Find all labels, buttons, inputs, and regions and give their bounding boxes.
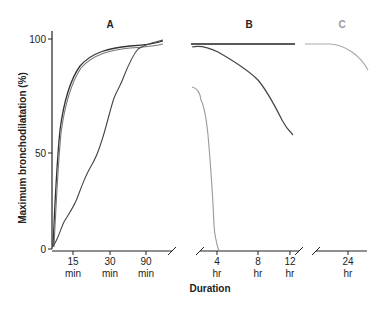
- y-tick-100: 100: [29, 34, 46, 45]
- y-tick-50: 50: [35, 148, 47, 159]
- series-short-acting-gray: [192, 87, 219, 251]
- series-slow-onset: [53, 40, 163, 246]
- x-tick-4hr-unit: hr: [213, 268, 223, 279]
- panel-c-label: C: [338, 19, 345, 30]
- x-tick-90-unit: min: [138, 268, 154, 279]
- x-tick-12hr: 12: [284, 256, 296, 267]
- panel-b: B 4 hr 8 hr 12 hr: [191, 19, 303, 279]
- x-tick-8hr-unit: hr: [254, 268, 264, 279]
- x-tick-24hr: 24: [342, 256, 354, 267]
- x-axis-label: Duration: [189, 283, 230, 294]
- y-axis-label: Maximum bronchodilatation (%): [17, 72, 28, 224]
- x-tick-4hr: 4: [214, 256, 220, 267]
- x-tick-90: 90: [140, 256, 152, 267]
- bronchodilatation-chart: Maximum bronchodilatation (%) 100 50 0 A…: [0, 0, 386, 310]
- panel-c: C 24 hr: [305, 19, 368, 279]
- x-tick-15-unit: min: [65, 268, 81, 279]
- x-tick-12hr-unit: hr: [286, 268, 296, 279]
- panel-a-label: A: [106, 19, 113, 30]
- y-tick-0: 0: [40, 244, 46, 255]
- panel-b-label: B: [245, 19, 252, 30]
- series-fast-onset-2: [54, 44, 163, 247]
- panel-a: A 15 min 30 min 90 min: [52, 19, 176, 279]
- x-tick-30: 30: [104, 256, 116, 267]
- x-tick-8hr: 8: [255, 256, 261, 267]
- series-declining-dark: [192, 46, 293, 135]
- y-ticks: 100 50 0: [29, 34, 52, 255]
- series-long-acting-gray: [305, 44, 368, 70]
- x-tick-30-unit: min: [102, 268, 118, 279]
- series-fast-onset-1: [53, 41, 163, 247]
- x-tick-15: 15: [67, 256, 79, 267]
- x-tick-24hr-unit: hr: [344, 268, 354, 279]
